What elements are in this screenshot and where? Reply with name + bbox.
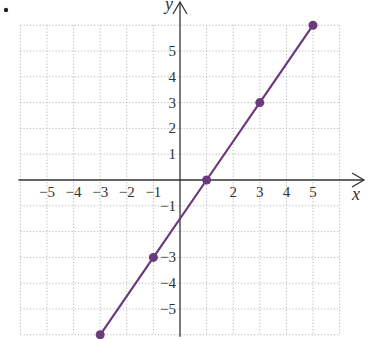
x-tick-label: 5 xyxy=(309,184,317,200)
y-tick-label: −1 xyxy=(160,198,176,214)
x-tick-label: −2 xyxy=(119,184,135,200)
x-tick-label: −3 xyxy=(92,184,108,200)
axes xyxy=(18,2,364,337)
y-tick-label: −3 xyxy=(160,249,176,265)
y-tick-label: 4 xyxy=(169,69,177,85)
y-tick-label: −4 xyxy=(160,275,176,291)
x-tick-label: −1 xyxy=(145,184,161,200)
y-tick-label: −5 xyxy=(160,301,176,317)
y-tick-label: 1 xyxy=(169,146,177,162)
data-point xyxy=(202,176,211,185)
x-tick-label: −4 xyxy=(66,184,82,200)
y-tick-label: 3 xyxy=(169,95,177,111)
x-axis-label: x xyxy=(351,184,360,204)
coordinate-plane: −5−4−3−2−1234554321−1−3−4−5 x y xyxy=(0,0,370,339)
y-axis-label: y xyxy=(163,0,173,14)
data-point xyxy=(255,98,264,107)
y-tick-label: 5 xyxy=(169,43,177,59)
data-point xyxy=(309,21,318,30)
x-tick-label: 3 xyxy=(256,184,264,200)
x-tick-label: −5 xyxy=(39,184,55,200)
data-point xyxy=(149,253,158,262)
y-tick-label: 2 xyxy=(169,120,177,136)
x-tick-label: 2 xyxy=(229,184,237,200)
x-tick-label: 4 xyxy=(283,184,291,200)
bullet-marker xyxy=(4,8,8,12)
data-point xyxy=(96,330,105,339)
